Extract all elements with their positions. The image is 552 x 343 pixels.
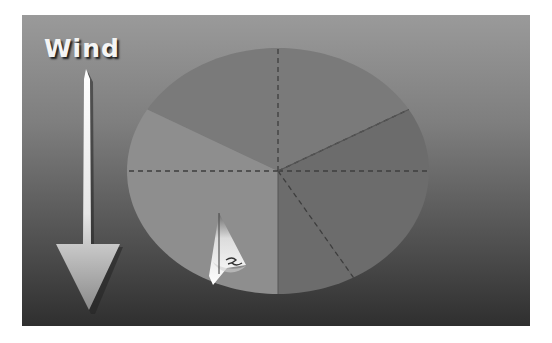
points-of-sail-wheel <box>127 48 429 294</box>
wind-arrow-icon <box>56 69 123 314</box>
wind-title: Wind <box>44 34 120 63</box>
